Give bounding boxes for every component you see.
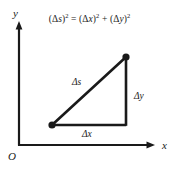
x-axis bbox=[18, 142, 155, 149]
x-axis-arrowhead-icon bbox=[147, 142, 156, 149]
hypotenuse bbox=[52, 57, 126, 125]
diagram-canvas bbox=[0, 0, 179, 169]
start-point-marker bbox=[48, 121, 55, 128]
end-point-marker bbox=[122, 53, 129, 60]
y-axis bbox=[16, 21, 23, 146]
y-axis-arrowhead-icon bbox=[16, 21, 23, 30]
arc-length-diagram: (Δs)2 = (Δx)2 + (Δy)2 y x O Δs Δy Δx bbox=[0, 0, 179, 169]
